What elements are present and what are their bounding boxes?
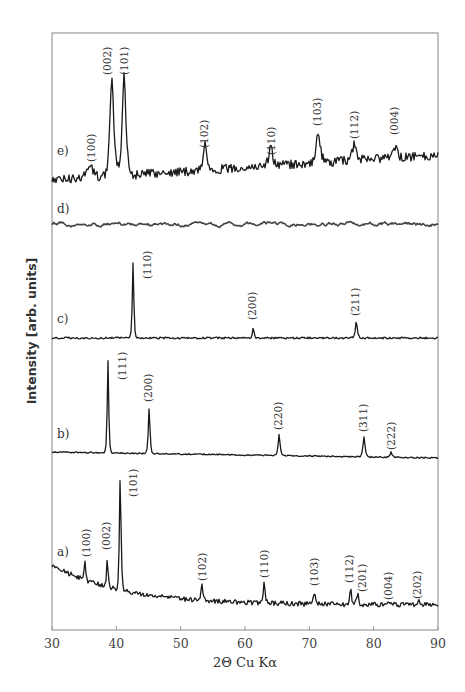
peak-label: (100) (85, 134, 97, 162)
x-tick-label: 70 (301, 636, 317, 651)
peak-label: (222) (385, 422, 397, 450)
peak-label: (311) (357, 404, 369, 432)
peak-label: (002) (101, 47, 113, 75)
xrd-curve-b (52, 361, 438, 459)
xrd-curve-d (52, 222, 438, 228)
peak-label: (102) (196, 553, 208, 581)
y-axis-title: Intensity [arb. units] (24, 258, 39, 405)
peak-label: (101) (118, 47, 130, 75)
peak-label: (110) (265, 127, 277, 155)
peak-label: (110) (258, 550, 270, 578)
series-labels-group: e)d)c)b)a) (57, 144, 69, 559)
peak-label: (112) (343, 555, 355, 583)
peak-label: (103) (308, 558, 320, 586)
series-label: b) (57, 427, 69, 441)
series-label: e) (57, 144, 69, 158)
xrd-chart: e)d)c)b)a) (100)(002)(101)(102)(110)(103… (0, 0, 465, 692)
peak-label: (004) (382, 572, 394, 600)
peak-label: (110) (141, 251, 153, 279)
series-label: c) (57, 312, 68, 326)
peak-label: (220) (272, 402, 284, 430)
peak-label: (004) (388, 107, 400, 135)
x-tick-label: 80 (366, 636, 382, 651)
xrd-curve-c (52, 263, 438, 339)
x-tick-label: 40 (108, 636, 124, 651)
peak-label: (100) (80, 529, 92, 557)
peak-label: (201) (356, 564, 368, 592)
x-tick-label: 90 (430, 636, 446, 651)
series-label: a) (57, 545, 69, 559)
peak-label: (002) (100, 522, 112, 550)
peak-label: (200) (246, 292, 258, 320)
peak-label: (102) (198, 120, 210, 148)
x-axis-title: 2Θ Cu Kα (213, 655, 277, 670)
x-tick-label: 30 (44, 636, 60, 651)
peak-label: (200) (142, 374, 154, 402)
peak-label: (103) (311, 98, 323, 126)
peak-label: (111) (116, 352, 128, 380)
peak-label: (101) (127, 469, 139, 497)
peak-label: (211) (349, 288, 361, 316)
x-tick-label: 60 (237, 636, 253, 651)
peak-label: (202) (411, 571, 423, 599)
x-tick-label: 50 (173, 636, 189, 651)
peak-label: (112) (348, 111, 360, 139)
series-label: d) (57, 202, 69, 216)
xrd-curve-e (52, 73, 438, 183)
